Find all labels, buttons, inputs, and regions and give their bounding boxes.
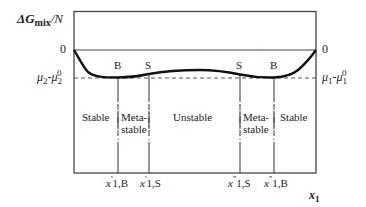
y-axis-label-tail: /N <box>51 11 63 26</box>
x-tick-x1-prime-S: x'1,S <box>140 177 161 189</box>
y-axis-label-main: ΔG <box>17 11 35 26</box>
diagram-canvas <box>0 0 366 207</box>
plot-frame <box>74 12 316 174</box>
mu-sub: 1 <box>328 76 333 86</box>
x-axis-label-sub: 1 <box>315 194 320 204</box>
point-label-right-spinodal: S <box>236 59 242 71</box>
mu-sup: 0 <box>342 68 347 78</box>
point-label-left-spinodal: S <box>145 59 151 71</box>
tick-sub: 1,B <box>272 177 288 189</box>
region-stable-left: Stable <box>82 111 110 123</box>
mu-sup: 0 <box>57 68 62 78</box>
x-tick-x1-dprime-S: x''1,S <box>228 177 251 189</box>
region-metastable-left: Meta- stable <box>121 111 147 135</box>
tick-sub: 1,B <box>113 177 129 189</box>
left-mu-label: μ2-μ20 <box>37 70 62 85</box>
left-zero-label: 0 <box>60 42 66 57</box>
mu-sub: 2 <box>43 76 48 86</box>
free-energy-curve <box>74 50 316 78</box>
point-label-right-binodal: B <box>270 59 277 71</box>
region-unstable: Unstable <box>173 111 212 123</box>
y-axis-label-sub: mix <box>35 17 51 28</box>
tick-prime: ' <box>111 174 113 184</box>
region-line: Stable <box>280 111 308 123</box>
tick-prime: '' <box>269 174 272 184</box>
region-line: Unstable <box>173 111 212 123</box>
region-metastable-right: Meta- stable <box>243 111 269 135</box>
x-axis-label: x1 <box>309 188 320 203</box>
right-zero-label: 0 <box>322 42 328 57</box>
point-label-left-binodal: B <box>114 59 121 71</box>
region-stable-right: Stable <box>280 111 308 123</box>
tick-prime: ' <box>145 174 147 184</box>
region-line: Stable <box>82 111 110 123</box>
x-tick-x1-prime-B: x'1,B <box>106 177 128 189</box>
tick-sub: 1,S <box>236 177 250 189</box>
tick-sub: 1,S <box>147 177 161 189</box>
region-line: stable <box>243 123 269 135</box>
y-axis-label: ΔGmix/N <box>17 11 63 27</box>
region-line: Meta- <box>121 111 147 123</box>
right-mu-label: μ1-μ10 <box>322 70 347 85</box>
region-line: Meta- <box>243 111 269 123</box>
x-tick-x1-dprime-B: x''1,B <box>264 177 288 189</box>
tick-prime: '' <box>233 174 236 184</box>
region-line: stable <box>121 123 147 135</box>
